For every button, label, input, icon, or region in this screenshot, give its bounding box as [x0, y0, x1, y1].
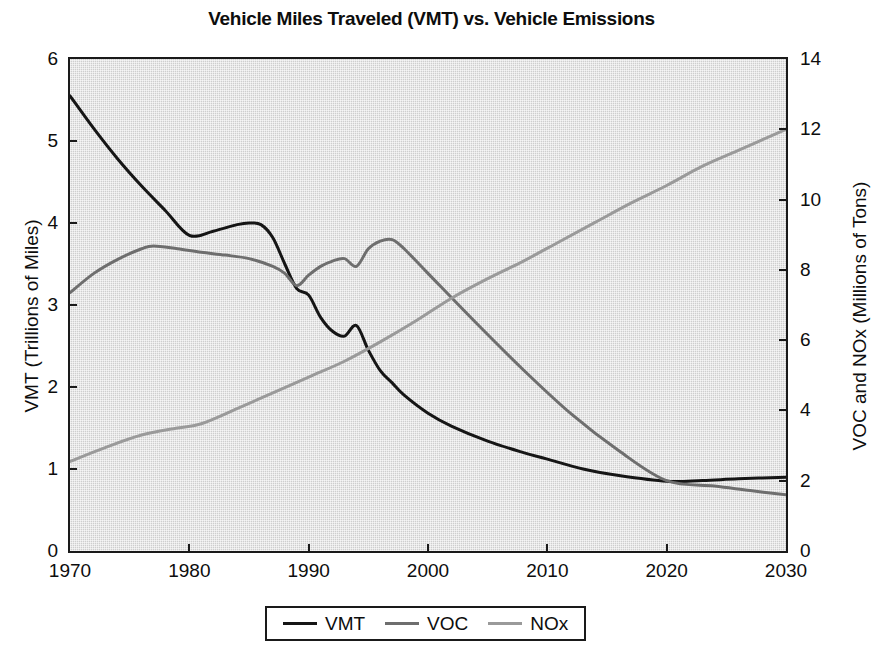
- y-tickmark-left: [68, 222, 77, 224]
- y-tick-right-14: 14: [800, 48, 840, 70]
- y-tick-right-10: 10: [800, 189, 840, 211]
- y-tick-left-2: 2: [18, 376, 58, 398]
- y-tick-left-6: 6: [18, 48, 58, 70]
- y-tickmark-right: [779, 128, 788, 130]
- plot-lines: [70, 59, 786, 551]
- y-tickmark-left: [68, 386, 77, 388]
- x-tickmark: [427, 544, 429, 553]
- chart-legend: VMTVOCNOx: [265, 606, 586, 641]
- series-line-voc: [70, 239, 786, 495]
- x-tick-1970: 1970: [30, 560, 110, 582]
- x-tick-1980: 1980: [149, 560, 229, 582]
- legend-swatch-vmt: [283, 622, 317, 625]
- y-tick-right-2: 2: [800, 470, 840, 492]
- y-tickmark-right: [779, 409, 788, 411]
- y-tick-left-1: 1: [18, 458, 58, 480]
- legend-entry-voc: VOC: [385, 613, 468, 635]
- x-tickmark: [308, 544, 310, 553]
- x-tickmark: [666, 544, 668, 553]
- y-tick-left-3: 3: [18, 294, 58, 316]
- chart-title: Vehicle Miles Traveled (VMT) vs. Vehicle…: [0, 8, 863, 30]
- legend-entry-nox: NOx: [488, 613, 568, 635]
- y-tickmark-left: [68, 468, 77, 470]
- legend-swatch-nox: [488, 622, 522, 625]
- y-tick-left-0: 0: [18, 540, 58, 562]
- y-axis-right-title: VOC and NOx (Millions of Tons): [849, 96, 871, 536]
- y-tickmark-right: [779, 269, 788, 271]
- legend-label-vmt: VMT: [325, 613, 365, 635]
- legend-entry-vmt: VMT: [283, 613, 365, 635]
- y-tickmark-left: [68, 304, 77, 306]
- y-tick-right-8: 8: [800, 259, 840, 281]
- y-tickmark-right: [779, 199, 788, 201]
- y-axis-left-title: VMT (Trillions of Miles): [21, 116, 43, 516]
- x-tick-2020: 2020: [627, 560, 707, 582]
- y-tick-right-4: 4: [800, 399, 840, 421]
- x-tick-2000: 2000: [388, 560, 468, 582]
- x-tick-2030: 2030: [746, 560, 826, 582]
- y-tick-right-12: 12: [800, 118, 840, 140]
- x-tickmark: [188, 544, 190, 553]
- x-tick-2010: 2010: [507, 560, 587, 582]
- y-tick-left-4: 4: [18, 212, 58, 234]
- x-tickmark: [546, 544, 548, 553]
- legend-swatch-voc: [385, 622, 419, 625]
- y-tick-right-0: 0: [800, 540, 840, 562]
- y-tickmark-right: [779, 480, 788, 482]
- series-line-vmt: [70, 96, 786, 482]
- plot-area: [68, 57, 788, 553]
- legend-label-voc: VOC: [427, 613, 468, 635]
- legend-label-nox: NOx: [530, 613, 568, 635]
- y-tick-left-5: 5: [18, 130, 58, 152]
- x-tick-1990: 1990: [269, 560, 349, 582]
- y-tick-right-6: 6: [800, 329, 840, 351]
- y-tickmark-left: [68, 140, 77, 142]
- y-tickmark-right: [779, 339, 788, 341]
